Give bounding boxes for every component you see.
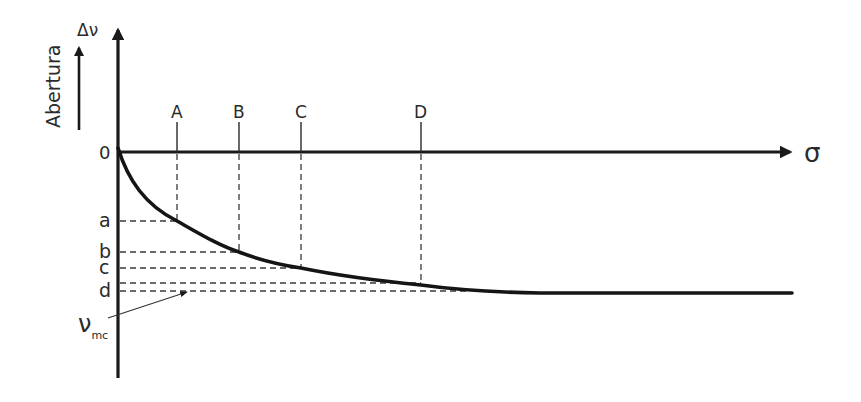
x-marker-a: A (171, 102, 183, 221)
x-marker-label: C (295, 102, 307, 122)
x-marker-label: D (414, 102, 427, 122)
svg-text:νmc: νmc (78, 310, 108, 342)
closure-curve-diagram: Abertura Δν σ 0 A B C D a b c (0, 0, 861, 402)
origin-label: 0 (99, 142, 110, 163)
asymptote-symbol: ν (78, 310, 91, 338)
y-axis-symbol: Δν (77, 20, 98, 40)
x-marker-label: A (171, 102, 183, 122)
y-axis-title: Abertura (42, 44, 64, 128)
closure-curve (118, 148, 792, 293)
y-marker-label: c (99, 256, 109, 278)
x-marker-c: C (295, 102, 307, 268)
x-marker-d: D (414, 102, 427, 283)
y-marker-d: d (99, 279, 421, 301)
pointer-arrow (108, 292, 187, 318)
x-axis-symbol: σ (804, 138, 820, 168)
y-marker-c: c (99, 256, 301, 278)
x-marker-b: B (233, 102, 245, 252)
y-marker-label: d (99, 279, 111, 301)
x-marker-label: B (233, 102, 245, 122)
asymptote-subscript: mc (91, 329, 108, 342)
max-closure-label: νmc (78, 310, 108, 342)
y-marker-label: a (99, 209, 111, 231)
